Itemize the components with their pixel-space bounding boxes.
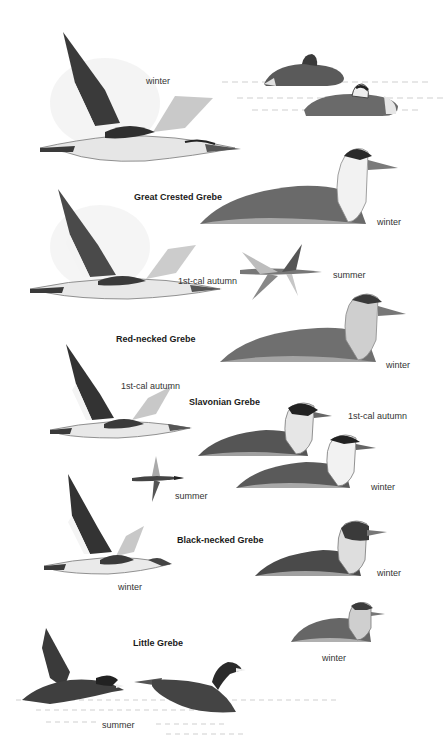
red-necked-grebe-swimming-winter xyxy=(218,290,408,366)
species-title-little-grebe: Little Grebe xyxy=(133,638,183,648)
black-necked-grebe-flight-illustration xyxy=(42,472,174,576)
little-grebe-running-1 xyxy=(20,628,124,708)
label-slavonian-flight-1st-cal-autumn: 1st-cal autumn xyxy=(121,381,180,391)
slavonian-grebe-swimming-winter xyxy=(234,432,379,492)
label-red-necked-flight-1st-cal-autumn: 1st-cal autumn xyxy=(178,276,237,286)
red-necked-grebe-flight-illustration xyxy=(28,185,223,305)
label-black-necked-flight-winter: winter xyxy=(118,582,142,592)
little-grebe-swimming-winter xyxy=(289,602,385,644)
label-slavonian-swim-1st-cal-autumn: 1st-cal autumn xyxy=(348,411,407,421)
label-slavonian-flight-small-summer: summer xyxy=(175,491,208,501)
little-grebe-running-2 xyxy=(132,660,248,716)
grebe-identification-plate: winter xyxy=(0,0,444,753)
label-little-grebe-running-summer: summer xyxy=(102,720,135,730)
black-necked-grebe-swimming-winter xyxy=(253,518,388,580)
label-red-necked-swim-winter: winter xyxy=(386,360,410,370)
great-crested-grebe-resting-2 xyxy=(302,82,400,118)
great-crested-grebe-swimming-winter xyxy=(198,142,403,232)
label-slavonian-swim-winter: winter xyxy=(371,482,395,492)
label-red-necked-flight-summer: summer xyxy=(333,270,366,280)
label-black-necked-swim-winter: winter xyxy=(377,568,401,578)
label-little-grebe-swim-winter: winter xyxy=(322,653,346,663)
label-great-crested-swim-winter: winter xyxy=(377,217,401,227)
species-title-black-necked-grebe: Black-necked Grebe xyxy=(177,535,264,545)
label-great-crested-flight-winter: winter xyxy=(146,76,170,86)
